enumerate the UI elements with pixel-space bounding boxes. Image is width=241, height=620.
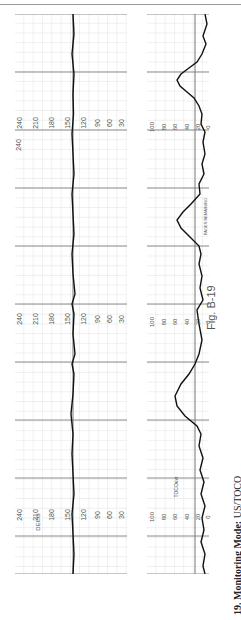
- uc-scale-set-top: 100 80 60 40 20 0: [147, 124, 209, 130]
- uc-scale-label: 60: [173, 319, 179, 326]
- fhr-scale-label: 240: [16, 117, 26, 129]
- fhr-scale-label: 60: [106, 511, 116, 519]
- uc-scale-label: 80: [162, 514, 168, 521]
- uc-scale-label: 40: [184, 514, 190, 521]
- uc-scale-label: 0: [204, 515, 210, 518]
- uc-mode-marker: TOCOext: [173, 476, 179, 497]
- caption-value: US/TOCO: [232, 476, 241, 519]
- fhr-scale-label: 30: [118, 511, 128, 519]
- fhr-strip: 240 240 210 180 150 120 90 60 30 240 210…: [15, 14, 127, 574]
- fhr-scale-label: 150: [64, 117, 74, 129]
- fhr-scale-set-top: 240 210 180 150 120 90 60 30: [15, 118, 127, 128]
- uc-scale-label: 20: [195, 124, 201, 131]
- uc-scale-label: 80: [162, 319, 168, 326]
- fhr-scale-set-bottom: 240 210 180 150 120 90 60 30: [15, 510, 127, 520]
- figure-caption: 19. Monitoring Mode: US/TOCO: [232, 476, 241, 615]
- fhr-scale-set-mid: 240 210 180 150 120 90 60 30: [15, 314, 127, 324]
- fhr-scale-label: 120: [80, 117, 90, 129]
- uc-scale-label: 40: [184, 124, 190, 131]
- fhr-grid: 240: [15, 14, 127, 574]
- uc-scale-label: 100: [149, 122, 155, 132]
- fhr-scale-label: 180: [48, 509, 58, 521]
- uc-scale-label: 80: [162, 124, 168, 131]
- uc-scale-label: 0: [204, 125, 210, 128]
- uc-scale-set-bottom: 100 80 60 40 20 0: [147, 514, 209, 520]
- uc-scale-label: 60: [173, 514, 179, 521]
- uc-footer: PAGES REMAINING: [203, 198, 208, 235]
- uc-scale-set-mid: 100 80 60 40 20 0: [147, 319, 209, 325]
- fhr-scale-label: 180: [48, 313, 58, 325]
- page-top-rule: [0, 4, 241, 5]
- uc-scale-label: 60: [173, 124, 179, 131]
- caption-number: 19.: [232, 603, 241, 616]
- fhr-scale-label: 30: [118, 315, 128, 323]
- fhr-scale-label: 60: [106, 315, 116, 323]
- uc-strip: 100 80 60 40 20 0 100 80 60 40 20 0 100 …: [147, 14, 209, 574]
- fhr-scale-label: 90: [94, 511, 104, 519]
- uc-scale-label: 40: [184, 319, 190, 326]
- fhr-scale-1: 240: [15, 139, 22, 151]
- uc-scale-label: 100: [149, 317, 155, 327]
- fhr-scale-label: 150: [64, 509, 74, 521]
- uc-scale-label: 100: [149, 512, 155, 522]
- fhr-scale-label: 210: [32, 313, 42, 325]
- fhr-mode-marker: DECG: [35, 513, 41, 530]
- fhr-scale-label: 60: [106, 119, 116, 127]
- fhr-scale-label: 150: [64, 313, 74, 325]
- svg-text:240: 240: [15, 139, 22, 151]
- fhr-scale-label: 210: [32, 117, 42, 129]
- fhr-scale-label: 30: [118, 119, 128, 127]
- fhr-scale-label: 120: [80, 509, 90, 521]
- fhr-scale-label: 90: [94, 315, 104, 323]
- caption-title: Monitoring Mode:: [232, 521, 241, 600]
- uc-scale-label: 20: [195, 514, 201, 521]
- fhr-scale-label: 180: [48, 117, 58, 129]
- figure-label: Fig. B-19: [205, 285, 217, 330]
- fhr-scale-label: 240: [16, 509, 26, 521]
- fhr-scale-label: 90: [94, 119, 104, 127]
- fhr-scale-label: 240: [16, 313, 26, 325]
- fhr-scale-label: 120: [80, 313, 90, 325]
- uc-scale-label: 20: [195, 319, 201, 326]
